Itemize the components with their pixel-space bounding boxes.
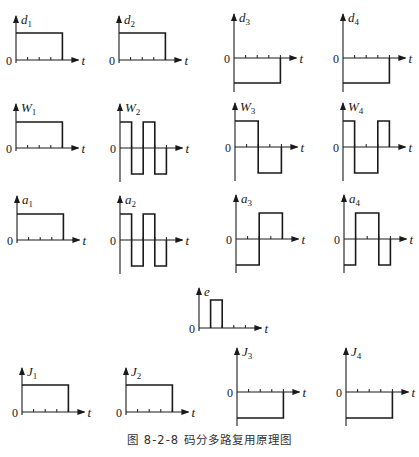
- waveform-plot-d2: 0td2: [109, 12, 188, 68]
- signal-waveform: [16, 33, 62, 60]
- origin-label: 0: [225, 141, 231, 155]
- signal-label-e: e: [204, 284, 210, 299]
- waveform-plot-a1: 0ta1: [7, 192, 86, 248]
- time-label: t: [302, 385, 306, 400]
- waveform-plot-a4: 0ta4: [334, 191, 413, 273]
- time-label: t: [87, 405, 91, 420]
- signal-waveform: [234, 58, 280, 83]
- time-label: t: [411, 385, 415, 400]
- origin-label: 0: [109, 54, 115, 68]
- signal-label-d2: d2: [124, 12, 135, 29]
- signal-label-a4: a4: [349, 191, 361, 208]
- origin-label: 0: [6, 54, 12, 68]
- waveform-plot-W2: 0tW2: [110, 100, 189, 182]
- signal-waveform: [346, 392, 392, 418]
- time-label: t: [408, 51, 412, 66]
- waveform-plot-W3: 0tW3: [225, 99, 304, 181]
- signal-label-J4: J4: [351, 344, 362, 361]
- time-label: t: [264, 321, 268, 336]
- waveform-plot-a3: 0ta3: [226, 191, 305, 273]
- time-label: t: [185, 141, 189, 156]
- signal-label-J3: J3: [242, 344, 253, 361]
- time-label: t: [82, 233, 86, 248]
- waveform-plot-d1: 0td1: [6, 12, 85, 68]
- origin-label: 0: [6, 142, 12, 156]
- signal-label-W3: W3: [240, 99, 256, 116]
- origin-label: 0: [110, 234, 116, 248]
- signal-label-d1: d1: [21, 12, 32, 29]
- origin-label: 0: [333, 52, 339, 66]
- waveform-plot-W1: 0tW1: [6, 100, 85, 156]
- waveform-plot-d4: 0td4: [333, 10, 412, 92]
- origin-label: 0: [226, 233, 232, 247]
- signal-waveform: [343, 58, 389, 83]
- signal-label-d4: d4: [348, 10, 360, 27]
- signal-waveform: [22, 385, 68, 412]
- waveform-plot-J4: 0tJ4: [336, 344, 415, 426]
- time-label: t: [184, 53, 188, 68]
- time-label: t: [81, 53, 85, 68]
- time-label: t: [299, 51, 303, 66]
- waveform-plot-J3: 0tJ3: [227, 344, 306, 426]
- time-label: t: [409, 232, 413, 247]
- origin-label: 0: [116, 406, 122, 420]
- signal-waveform: [17, 214, 63, 240]
- signal-waveform: [211, 300, 223, 328]
- time-label: t: [301, 232, 305, 247]
- waveform-plot-e: 0te: [189, 284, 268, 336]
- signal-label-W2: W2: [125, 100, 140, 117]
- signal-waveform: [16, 122, 62, 148]
- waveform-plot-a2: 0ta2: [110, 192, 189, 274]
- signal-waveform: [126, 385, 172, 412]
- origin-label: 0: [12, 406, 18, 420]
- time-label: t: [408, 140, 412, 155]
- origin-label: 0: [333, 141, 339, 155]
- origin-label: 0: [7, 234, 13, 248]
- signal-label-J1: J1: [27, 364, 37, 381]
- origin-label: 0: [110, 142, 116, 156]
- signal-label-d3: d3: [239, 10, 251, 27]
- signal-label-a3: a3: [241, 191, 253, 208]
- waveform-plot-J2: 0tJ2: [116, 364, 195, 420]
- signal-label-W4: W4: [348, 99, 364, 116]
- time-label: t: [300, 140, 304, 155]
- waveform-plot-J1: 0tJ1: [12, 364, 91, 420]
- signal-waveform: [119, 33, 165, 60]
- waveform-plot-W4: 0tW4: [333, 99, 412, 181]
- origin-label: 0: [334, 233, 340, 247]
- time-label: t: [185, 233, 189, 248]
- time-label: t: [191, 405, 195, 420]
- time-label: t: [81, 141, 85, 156]
- origin-label: 0: [227, 386, 233, 400]
- signal-label-J2: J2: [131, 364, 141, 381]
- origin-label: 0: [336, 386, 342, 400]
- cdma-principle-figure: 0td10td20td30td40tW10tW20tW30tW40ta10ta2…: [0, 0, 419, 457]
- origin-label: 0: [224, 52, 230, 66]
- figure-caption: 图 8-2-8 码分多路复用原理图: [0, 431, 419, 447]
- signal-label-a1: a1: [22, 192, 33, 209]
- signal-label-W1: W1: [21, 100, 36, 117]
- waveform-plot-d3: 0td3: [224, 10, 303, 92]
- signal-waveform: [237, 392, 283, 418]
- signal-label-a2: a2: [125, 192, 136, 209]
- origin-label: 0: [189, 322, 195, 336]
